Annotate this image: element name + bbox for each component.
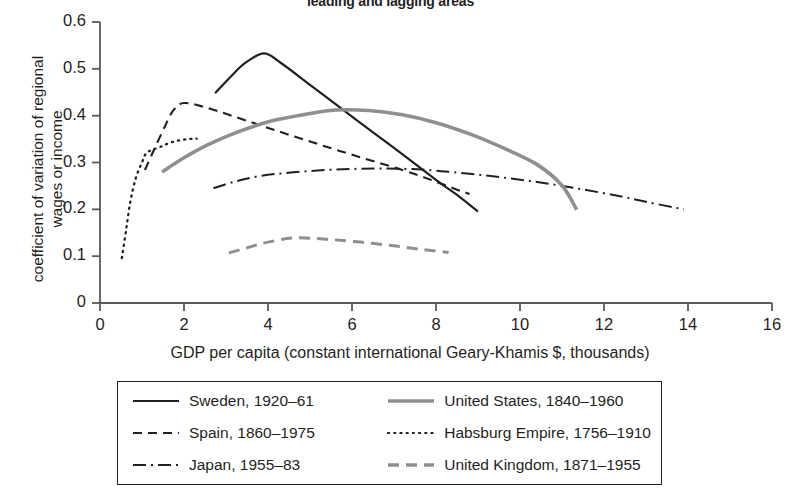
legend-item[interactable]: Habsburg Empire, 1756–1910	[387, 424, 651, 442]
legend-item[interactable]: Spain, 1860–1975	[132, 424, 387, 442]
legend-swatch-icon	[132, 426, 180, 440]
legend-item[interactable]: Japan, 1955–83	[132, 456, 387, 474]
chart-legend: Sweden, 1920–61United States, 1840–1960S…	[117, 381, 662, 485]
legend-item[interactable]: Sweden, 1920–61	[132, 392, 387, 410]
legend-label: United Kingdom, 1871–1955	[444, 456, 640, 474]
legend-item[interactable]: United States, 1840–1960	[387, 392, 651, 410]
legend-swatch-icon	[132, 394, 180, 408]
legend-item[interactable]: United Kingdom, 1871–1955	[387, 456, 651, 474]
series-line	[215, 53, 478, 211]
legend-swatch-icon	[387, 394, 435, 408]
legend-swatch-icon	[132, 458, 180, 472]
legend-label: Spain, 1860–1975	[189, 424, 315, 442]
legend-label: United States, 1840–1960	[444, 392, 623, 410]
legend-label: Sweden, 1920–61	[189, 392, 314, 410]
legend-swatch-icon	[387, 458, 435, 472]
plot-area	[0, 0, 781, 360]
series-line	[145, 103, 470, 194]
series-line	[229, 238, 449, 253]
legend-label: Habsburg Empire, 1756–1910	[444, 424, 651, 442]
legend-label: Japan, 1955–83	[189, 456, 300, 474]
legend-swatch-icon	[387, 426, 435, 440]
